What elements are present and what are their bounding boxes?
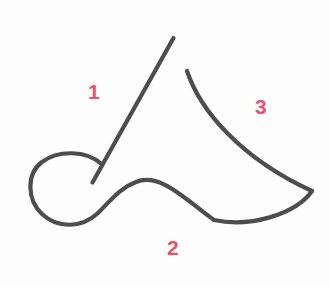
stroke-number-label-3: 3: [255, 96, 267, 117]
stroke-number-label-1: 1: [88, 81, 100, 102]
drawing-canvas: 1 2 3: [0, 0, 330, 287]
stroke-diagram: [0, 0, 330, 287]
stroke-path-3: [187, 71, 312, 191]
stroke-path-1: [93, 38, 174, 183]
stroke-path-2: [30, 153, 312, 225]
stroke-number-label-2: 2: [167, 237, 179, 258]
